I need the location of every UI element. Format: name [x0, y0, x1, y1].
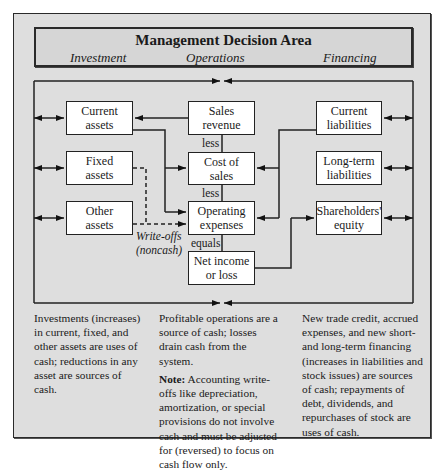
node-other-assets: Other assets — [66, 201, 133, 235]
node-fixed-assets: Fixed assets — [66, 151, 133, 185]
node-net-income: Net income or loss — [188, 251, 255, 285]
node-cost-of-sales: Cost of sales — [188, 152, 255, 185]
note-label: Note: — [159, 373, 185, 385]
note-investment: Investments (increases) in current, fixe… — [34, 311, 146, 400]
label-noncash: (noncash) — [136, 244, 182, 256]
node-current-assets: Current assets — [66, 101, 133, 135]
node-sales-revenue: Sales revenue — [188, 101, 255, 135]
label-writeoffs: Write-offs — [136, 230, 181, 242]
note-financing: New trade credit, accrued expenses, and … — [302, 311, 424, 443]
note-operations: Profitable operations are a source of ca… — [159, 311, 279, 474]
note-financing-text: New trade credit, accrued expenses, and … — [302, 311, 424, 439]
note-writeoff-text: Accounting write-offs like depreciation,… — [159, 373, 277, 470]
note-operations-writeoff: Note: Accounting write-offs like depreci… — [159, 372, 279, 471]
node-operating-expenses: Operating expenses — [188, 201, 255, 235]
node-current-liabilities: Current liabilities — [316, 101, 382, 135]
label-less-2: less — [202, 187, 219, 199]
node-long-term-liabilities: Long-term liabilities — [316, 151, 382, 185]
node-shareholders-equity: Shareholders' equity — [316, 201, 382, 235]
note-investment-text: Investments (increases) in current, fixe… — [34, 311, 146, 396]
note-operations-text: Profitable operations are a source of ca… — [159, 311, 279, 368]
label-less-1: less — [202, 137, 219, 149]
label-equals: equals — [191, 237, 220, 249]
